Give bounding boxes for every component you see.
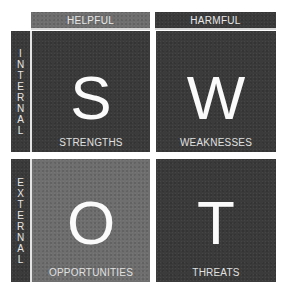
letter: A (17, 114, 24, 125)
column-header-harmful: HARMFUL (155, 12, 276, 30)
column-header-helpful: HELPFUL (31, 12, 150, 30)
letter: I (19, 48, 22, 59)
letter: E (17, 210, 24, 221)
quadrant-label: OPPORTUNITIES (32, 267, 150, 278)
letter: R (17, 92, 24, 103)
letter: R (17, 221, 24, 232)
quadrant-letter: S (32, 67, 150, 129)
letter: T (17, 199, 23, 210)
quadrant-weaknesses: W WEAKNESSES (156, 31, 276, 152)
letter: N (17, 103, 24, 114)
letter: A (17, 243, 24, 254)
quadrant-strengths: S STRENGTHS (32, 31, 150, 152)
letter: N (17, 232, 24, 243)
letter: N (17, 59, 24, 70)
quadrant-label: THREATS (156, 267, 276, 278)
letter: X (17, 188, 24, 199)
column-header-label: HELPFUL (67, 15, 114, 26)
quadrant-threats: T THREATS (156, 159, 276, 282)
row-header-internal: I N T E R N A L (11, 31, 30, 152)
row-header-label: E X T E R N A L (17, 177, 24, 265)
quadrant-label: STRENGTHS (32, 137, 150, 148)
row-header-external: E X T E R N A L (11, 159, 30, 282)
letter: E (17, 177, 24, 188)
quadrant-letter: O (32, 192, 150, 254)
quadrant-opportunities: O OPPORTUNITIES (32, 159, 150, 282)
letter: T (17, 70, 23, 81)
quadrant-label: WEAKNESSES (156, 137, 276, 148)
row-header-label: I N T E R N A L (17, 48, 24, 136)
letter: L (18, 254, 24, 265)
letter: L (18, 125, 24, 136)
letter: E (17, 81, 24, 92)
quadrant-letter: T (156, 192, 276, 254)
quadrant-letter: W (156, 67, 276, 129)
column-header-label: HARMFUL (190, 15, 240, 26)
